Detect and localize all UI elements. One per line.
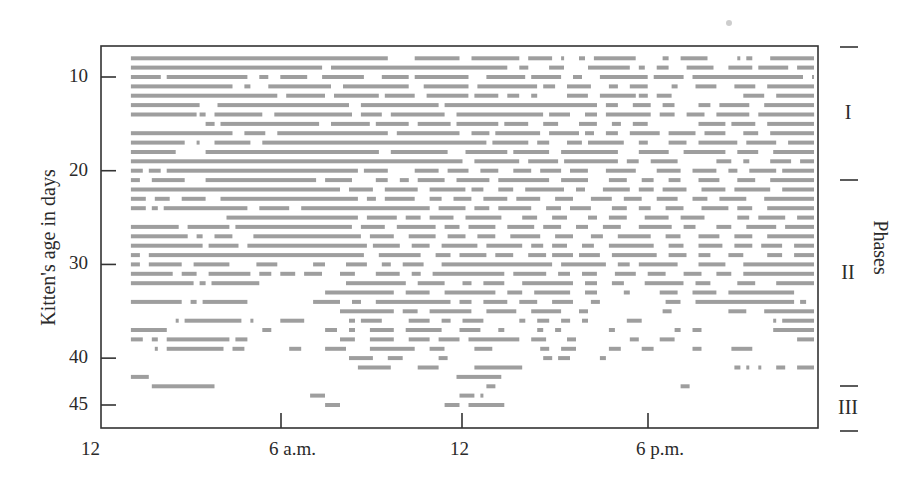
sleep-bar xyxy=(212,281,260,285)
sleep-bar xyxy=(591,300,600,304)
sleep-bar xyxy=(403,262,424,266)
sleep-bar xyxy=(152,206,158,210)
sleep-bar xyxy=(445,103,597,107)
sleep-bar xyxy=(612,253,657,257)
sleep-bar xyxy=(486,384,495,388)
sleep-bar xyxy=(585,281,597,285)
sleep-bar xyxy=(406,291,430,295)
sleep-bar xyxy=(448,234,466,238)
sleep-bar xyxy=(131,225,179,229)
x-tick-label: 6 a.m. xyxy=(269,438,349,460)
phase-label: II xyxy=(830,261,866,284)
sleep-bar xyxy=(558,356,570,360)
sleep-bar xyxy=(663,56,669,60)
sleep-bar xyxy=(322,75,364,79)
sleep-bar xyxy=(776,94,814,98)
phases-axis-title: Phases xyxy=(869,213,892,283)
sleep-bar xyxy=(397,225,436,229)
sleep-bar xyxy=(543,84,555,88)
sleep-bar xyxy=(131,103,200,107)
sleep-bar xyxy=(588,216,597,220)
sleep-bar xyxy=(176,319,179,323)
sleep-bar xyxy=(474,347,492,351)
sleep-bar xyxy=(152,178,185,182)
phase-label: I xyxy=(830,101,866,124)
sleep-bar xyxy=(537,141,549,145)
sleep-bar xyxy=(155,197,170,201)
sleep-bar xyxy=(615,272,636,276)
sleep-bar xyxy=(758,66,788,70)
sleep-bar xyxy=(776,281,814,285)
sleep-bar xyxy=(388,356,403,360)
sleep-bar xyxy=(639,225,672,229)
sleep-bar xyxy=(609,84,618,88)
sleep-bar xyxy=(716,225,731,229)
sleep-bar xyxy=(764,309,814,313)
sleep-bar xyxy=(164,206,248,210)
sleep-bar xyxy=(767,122,814,126)
sleep-bar xyxy=(442,262,552,266)
sleep-bar xyxy=(343,84,409,88)
sleep-bar xyxy=(770,56,814,60)
sleep-bar xyxy=(603,188,630,192)
sleep-bar xyxy=(131,337,143,341)
sleep-bar xyxy=(167,337,230,341)
sleep-bar xyxy=(149,253,364,257)
sleep-bar xyxy=(687,66,714,70)
sleep-bar xyxy=(483,197,507,201)
sleep-bar xyxy=(549,66,564,70)
sleep-bar xyxy=(131,66,322,70)
sleep-bar xyxy=(669,141,687,145)
sleep-bar xyxy=(669,244,684,248)
sleep-bar xyxy=(737,178,755,182)
sleep-bar xyxy=(370,337,394,341)
sleep-bar xyxy=(618,234,651,238)
actogram-chart xyxy=(0,0,914,491)
sleep-bar xyxy=(669,253,687,257)
sleep-bar xyxy=(770,178,814,182)
sleep-bar xyxy=(675,328,681,332)
sleep-bar xyxy=(794,253,814,257)
sleep-bar xyxy=(131,375,149,379)
sleep-bar xyxy=(660,113,675,117)
sleep-bar xyxy=(612,281,624,285)
sleep-bar xyxy=(639,94,648,98)
sleep-bar xyxy=(364,169,388,173)
sleep-bar xyxy=(606,103,618,107)
sleep-bar xyxy=(552,300,573,304)
sleep-bar xyxy=(466,150,508,154)
sleep-bar xyxy=(498,328,504,332)
sleep-bar xyxy=(785,225,814,229)
sleep-bar xyxy=(591,234,603,238)
sleep-bar xyxy=(699,234,720,238)
sleep-bar xyxy=(194,262,230,266)
x-tick-label: 6 p.m. xyxy=(636,438,716,460)
sleep-bar xyxy=(361,103,439,107)
sleep-bar xyxy=(418,366,439,370)
sleep-bar xyxy=(206,150,379,154)
sleep-bar xyxy=(280,272,295,276)
sleep-bar xyxy=(699,178,720,182)
sleep-bar xyxy=(131,113,197,117)
sleep-bar xyxy=(699,141,738,145)
sleep-bar xyxy=(699,122,726,126)
sleep-bar xyxy=(513,169,531,173)
sleep-bar xyxy=(203,300,248,304)
sleep-bar xyxy=(152,337,158,341)
sleep-bar xyxy=(600,75,648,79)
sleep-bar xyxy=(259,272,271,276)
sleep-bar xyxy=(340,309,394,313)
sleep-bar xyxy=(543,122,558,126)
y-tick-label: 40 xyxy=(48,346,88,368)
sleep-bar xyxy=(618,262,630,266)
sleep-bar xyxy=(770,131,814,135)
sleep-bar xyxy=(660,291,678,295)
sleep-bar xyxy=(346,281,406,285)
sleep-bar xyxy=(349,319,355,323)
sleep-bar xyxy=(552,216,567,220)
sleep-bar xyxy=(612,206,627,210)
sleep-bar xyxy=(331,122,370,126)
sleep-bar xyxy=(624,291,630,295)
sleep-bar xyxy=(731,347,752,351)
sleep-bar xyxy=(259,75,268,79)
